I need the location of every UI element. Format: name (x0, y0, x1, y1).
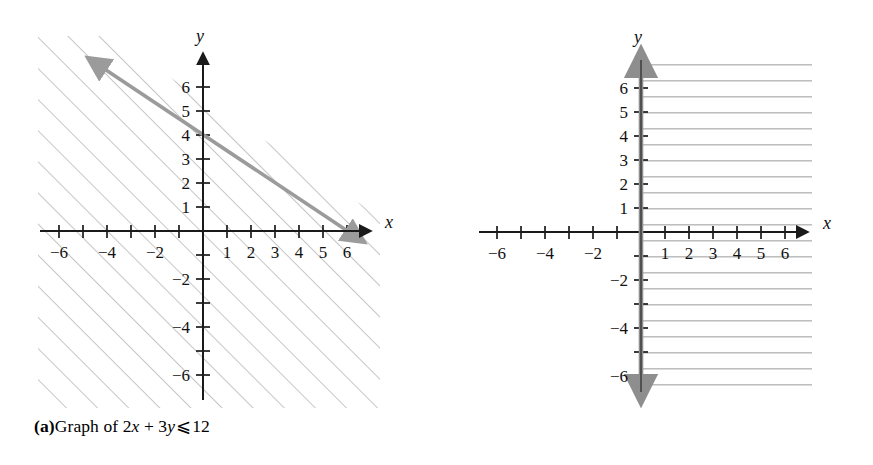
x-tick-label: 5 (757, 244, 766, 263)
graph-b-canvas: x y −6 −4 −2 1 2 3 4 5 6 6 5 4 3 2 1 −2 … (437, 0, 873, 420)
x-tick-label: 3 (271, 243, 280, 262)
y-tick-label: −2 (172, 270, 190, 289)
x-tick-label: 3 (709, 244, 718, 263)
x-tick-label: 4 (295, 243, 304, 262)
caption-a: (a)Graph of 2x + 3y⩽12 (34, 416, 210, 437)
y-tick-label: 3 (182, 150, 191, 169)
y-tick-label: 1 (182, 198, 191, 217)
y-axis-label-a: y (194, 26, 204, 46)
y-tick-label: 6 (182, 78, 191, 97)
x-tick-label: 2 (685, 244, 694, 263)
caption-a-text-2: + 3 (139, 416, 167, 436)
y-tick-label: 2 (620, 175, 629, 194)
y-axis-label-b: y (632, 27, 642, 47)
x-tick-label: 4 (733, 244, 742, 263)
y-tick-label: 4 (620, 127, 629, 146)
caption-a-value: 12 (192, 416, 210, 436)
y-tick-label: 5 (182, 102, 191, 121)
caption-a-label: (a) (34, 416, 55, 436)
y-tick-label: −4 (172, 318, 191, 337)
y-tick-label: −6 (172, 366, 190, 385)
x-tick-label: 6 (343, 243, 352, 262)
y-tick-label: −4 (610, 319, 629, 338)
x-tick-label: 1 (661, 244, 670, 263)
caption-a-relation: ⩽ (175, 416, 192, 436)
figure-root: x y −6 −4 −2 1 2 3 4 5 6 6 5 4 3 2 1 −2 … (0, 0, 873, 465)
shaded-region-a (38, 36, 380, 408)
caption-a-text-1: Graph of 2 (55, 416, 132, 436)
x-tick-label: 6 (781, 244, 790, 263)
graph-panel-b: x y −6 −4 −2 1 2 3 4 5 6 6 5 4 3 2 1 −2 … (437, 0, 873, 465)
x-axis-label-b: x (822, 213, 831, 233)
x-axis-label-a: x (384, 212, 393, 232)
caption-a-var-2: y (167, 416, 175, 436)
y-tick-label: 1 (620, 199, 629, 218)
shaded-region-b (641, 52, 812, 400)
y-tick-label: 3 (620, 151, 629, 170)
y-tick-label: 2 (182, 174, 191, 193)
y-tick-label: 4 (182, 126, 191, 145)
graph-panel-a: x y −6 −4 −2 1 2 3 4 5 6 6 5 4 3 2 1 −2 … (0, 0, 436, 465)
y-tick-label: 6 (620, 79, 629, 98)
y-tick-label: −6 (610, 367, 628, 386)
y-tick-label: 5 (620, 103, 629, 122)
x-tick-label: −4 (536, 244, 555, 263)
x-tick-label: 1 (223, 243, 232, 262)
x-tick-label: −2 (584, 244, 602, 263)
x-tick-label: −4 (98, 243, 117, 262)
x-tick-label: −2 (146, 243, 164, 262)
x-tick-label: −6 (50, 243, 68, 262)
x-tick-label: −6 (488, 244, 506, 263)
y-tick-label: −2 (610, 271, 628, 290)
graph-a-canvas: x y −6 −4 −2 1 2 3 4 5 6 6 5 4 3 2 1 −2 … (0, 0, 436, 420)
x-tick-label: 2 (247, 243, 256, 262)
x-tick-label: 5 (319, 243, 328, 262)
